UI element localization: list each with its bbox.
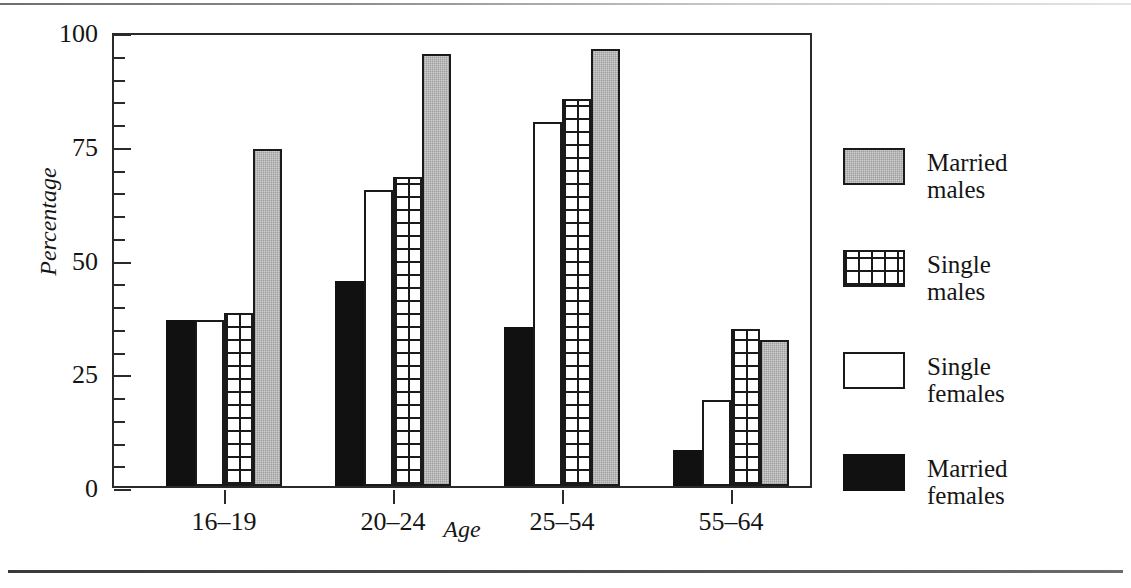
legend-swatch-solid-black-icon (843, 454, 905, 491)
y-tick-minor (114, 284, 125, 286)
legend-swatch-diagonal-icon (843, 352, 905, 389)
y-tick-major (114, 34, 131, 36)
bar (253, 149, 282, 486)
plot-area: 0255075100 16–1920–2425–5455–64 (112, 33, 812, 488)
legend-item[interactable]: Marriedmales (843, 148, 1123, 203)
y-tick-label: 100 (28, 21, 98, 47)
bar (562, 99, 591, 486)
y-tick-minor (114, 125, 125, 127)
bar (533, 122, 562, 486)
legend-item[interactable]: Marriedfemales (843, 454, 1123, 509)
legend-label-line2: females (927, 482, 1008, 509)
y-tick-minor (114, 307, 125, 309)
page-top-rule (0, 3, 1131, 5)
y-tick-minor (114, 102, 125, 104)
x-tick (731, 490, 733, 504)
y-tick-minor (114, 171, 125, 173)
y-tick-major (114, 262, 131, 264)
legend-label: Marriedfemales (927, 454, 1008, 509)
legend-label: Singlefemales (927, 352, 1005, 407)
bar (702, 400, 731, 486)
bar (422, 54, 451, 486)
y-tick-minor (114, 239, 125, 241)
bar (224, 313, 253, 486)
bar (673, 450, 702, 486)
bar (731, 329, 760, 486)
legend-swatch-grid-icon (843, 250, 905, 287)
y-tick-minor (114, 80, 125, 82)
legend-label: Marriedmales (927, 148, 1008, 203)
x-tick (393, 490, 395, 504)
page-bottom-rule (8, 570, 1123, 573)
bar (335, 281, 364, 486)
y-tick-minor (114, 57, 125, 59)
y-tick-minor (114, 421, 125, 423)
x-tick (224, 490, 226, 504)
legend-label-line2: females (927, 380, 1005, 407)
y-tick-minor (114, 330, 125, 332)
bar (195, 320, 224, 486)
legend-label-line2: males (927, 278, 991, 305)
y-tick-minor (114, 444, 125, 446)
y-tick-minor (114, 193, 125, 195)
y-tick-major (114, 489, 131, 491)
legend-label-line2: males (927, 176, 1008, 203)
chart-legend: MarriedmalesSinglemalesSinglefemalesMarr… (843, 148, 1123, 556)
legend-swatch-gray-stipple-icon (843, 148, 905, 185)
y-tick-major (114, 148, 131, 150)
y-tick-label: 0 (28, 476, 98, 502)
legend-label: Singlemales (927, 250, 991, 305)
y-tick-minor (114, 353, 125, 355)
legend-label-line1: Single (927, 251, 991, 278)
bar (760, 340, 789, 486)
y-tick-minor (114, 466, 125, 468)
bar (364, 190, 393, 486)
bar (393, 177, 422, 486)
x-axis-title: Age (112, 516, 812, 543)
legend-label-line1: Single (927, 353, 991, 380)
bar (166, 320, 195, 486)
bar (591, 49, 620, 486)
x-tick (562, 490, 564, 504)
bar (504, 327, 533, 486)
legend-item[interactable]: Singlefemales (843, 352, 1123, 407)
y-tick-major (114, 375, 131, 377)
legend-item[interactable]: Singlemales (843, 250, 1123, 305)
legend-label-line1: Married (927, 149, 1008, 176)
y-tick-minor (114, 216, 125, 218)
y-tick-label: 25 (28, 362, 98, 388)
legend-label-line1: Married (927, 455, 1008, 482)
y-axis-title: Percentage (35, 142, 62, 302)
y-tick-minor (114, 398, 125, 400)
